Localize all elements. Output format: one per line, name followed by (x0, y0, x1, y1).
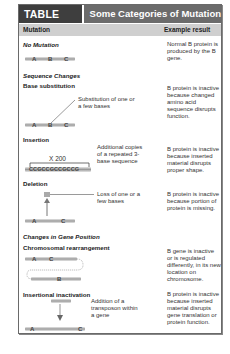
insertion-arrow (54, 303, 66, 323)
gene-label: B (48, 122, 52, 128)
label-base-substitution: Base substitution (23, 82, 75, 89)
section-title-no-mutation: No Mutation (23, 41, 59, 48)
result-insertional-inactivation: B protein is inactive because inserted m… (167, 291, 221, 326)
result-no-mutation: Normal B protein is produced by the B ge… (167, 41, 221, 62)
column-header-example-result: Example result (164, 24, 210, 36)
dna-strand (31, 277, 81, 281)
gene-label: C (78, 326, 82, 332)
column-header-row: Mutation Example result (19, 24, 221, 36)
annotation-insertion: Additional copies of a repeated 3-base s… (97, 144, 145, 165)
gene-label: A (32, 218, 36, 224)
gene-label: B (48, 56, 52, 62)
gene-label: C (61, 218, 65, 224)
mutation-table: TABLE 11.1 Some Categories of Mutation M… (18, 4, 222, 334)
annotation-deletion: Loss of one or a few bases (97, 191, 145, 205)
gene-label: C (64, 122, 68, 128)
label-chromosomal-rearrangement: Chromosomal rearrangement (23, 244, 110, 251)
section-title-gene-position: Changes in Gene Position (23, 233, 100, 240)
label-insertional-inactivation: Insertional inactivation (23, 291, 90, 298)
table-number: TABLE 11.1 (19, 5, 82, 23)
gene-label: A (32, 56, 36, 62)
column-header-mutation: Mutation (23, 24, 50, 36)
repeat-count: X 200 (49, 155, 66, 162)
annotation-substitution: Substitution of one or a few bases (78, 96, 138, 110)
result-chromosomal-rearrangement: B gene is inactive or is regulated diffe… (167, 248, 221, 283)
deletion-diagram (39, 190, 104, 220)
gene-label: A (32, 122, 36, 128)
section-title-sequence-changes: Sequence Changes (23, 72, 80, 79)
table-header: TABLE 11.1 Some Categories of Mutation (19, 5, 221, 23)
label-insertion: Insertion (23, 136, 49, 143)
repeat-sequence: CCGCCGCCGCCG (29, 166, 79, 172)
result-base-substitution: B protein is inactive because changed am… (167, 85, 221, 120)
gene-label: C (64, 56, 68, 62)
result-deletion: B protein is inactive because portion of… (167, 191, 221, 212)
result-insertion: B protein is inactive because inserted m… (167, 146, 221, 174)
label-deletion: Deletion (23, 180, 47, 187)
annotation-insertional-inactivation: Addition of a transposon within a gene (91, 298, 139, 319)
gene-label: B (57, 276, 61, 282)
table-title: Some Categories of Mutation (84, 5, 221, 23)
gene-label: A (30, 326, 34, 332)
